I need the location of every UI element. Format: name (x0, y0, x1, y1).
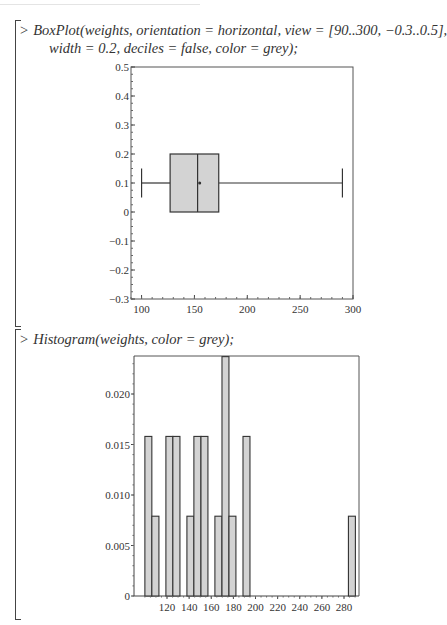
x-tick-label: 280 (336, 601, 353, 613)
x-tick-label: 200 (247, 601, 264, 613)
histogram-bar (166, 436, 173, 596)
y-tick-label: 0.010 (105, 489, 130, 501)
y-tick-label: 0.015 (105, 439, 130, 451)
histogram-bar (152, 516, 159, 596)
histogram-bar (348, 516, 355, 596)
histogram-bar (215, 516, 222, 596)
histogram-bar (187, 516, 194, 596)
x-tick-label: 240 (292, 601, 309, 613)
x-tick-label: 180 (225, 601, 242, 613)
histogram-bar (243, 436, 250, 596)
x-tick-label: 220 (269, 601, 286, 613)
histogram-bar (145, 436, 152, 596)
histogram-bar (173, 436, 180, 596)
histogram-bar (222, 357, 229, 596)
y-tick-label: 0.020 (105, 388, 130, 400)
x-tick-label: 260 (314, 601, 331, 613)
x-tick-label: 140 (181, 601, 198, 613)
y-tick-label: 0.005 (105, 540, 130, 552)
histogram-bar (201, 436, 208, 596)
y-tick-label: 0 (125, 590, 131, 602)
histogram-bar (194, 436, 201, 596)
x-tick-label: 160 (203, 601, 220, 613)
x-tick-label: 120 (159, 601, 176, 613)
histogram-bar (229, 516, 236, 596)
